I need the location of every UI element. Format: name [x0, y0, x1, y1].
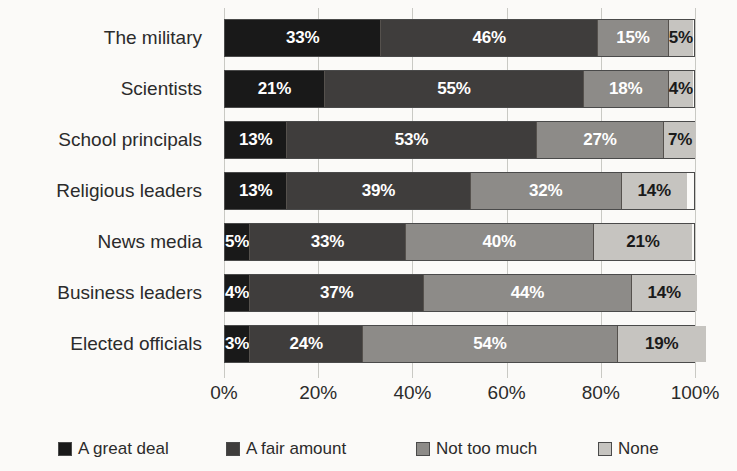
bar-row: 5%33%40%21%	[224, 223, 695, 261]
bar-row: 33%46%15%5%	[224, 19, 695, 57]
bar-segment: 4%	[225, 275, 249, 311]
bar-segment: 5%	[225, 224, 249, 260]
bar-segment: 27%	[536, 122, 663, 158]
x-tick-label: 80%	[582, 382, 620, 404]
bar-segment: 53%	[286, 122, 536, 158]
category-label: Scientists	[0, 70, 212, 108]
bar-segment: 3%	[225, 326, 249, 362]
legend-item[interactable]: A fair amount	[226, 438, 346, 460]
legend-label: None	[618, 439, 659, 459]
bar-row: 4%37%44%14%	[224, 274, 695, 312]
category-label: The military	[0, 19, 212, 57]
legend-swatch-icon	[598, 442, 612, 456]
chart-legend: A great dealA fair amountNot too muchNon…	[58, 438, 718, 462]
gridline-100	[695, 8, 696, 378]
bar-segment: 39%	[286, 173, 470, 209]
legend-swatch-icon	[226, 442, 240, 456]
stacked-bar-chart: The militaryScientistsSchool principalsR…	[0, 0, 737, 471]
bar-segment: 4%	[668, 71, 693, 107]
bar-segment: 40%	[405, 224, 593, 260]
bar-segment: 33%	[225, 20, 380, 56]
category-axis-labels: The militaryScientistsSchool principalsR…	[0, 8, 212, 378]
x-tick-label: 20%	[299, 382, 337, 404]
plot-area: 33%46%15%5%21%55%18%4%13%53%27%7%13%39%3…	[224, 8, 695, 378]
bar-segment: 14%	[621, 173, 687, 209]
bar-segment: 19%	[617, 326, 706, 362]
category-label: Elected officials	[0, 325, 212, 363]
bar-segment: 14%	[631, 275, 697, 311]
legend-label: Not too much	[436, 439, 537, 459]
bar-row: 3%24%54%19%	[224, 325, 695, 363]
legend-label: A fair amount	[246, 439, 346, 459]
bar-segment: 44%	[423, 275, 630, 311]
x-tick-label: 0%	[210, 382, 237, 404]
category-label: News media	[0, 223, 212, 261]
bar-row: 13%53%27%7%	[224, 121, 695, 159]
bar-segment: 46%	[380, 20, 597, 56]
bar-segment: 7%	[663, 122, 696, 158]
bar-segment: 5%	[668, 20, 693, 56]
category-label: Business leaders	[0, 274, 212, 312]
bar-segment: 24%	[249, 326, 362, 362]
bar-segment: 18%	[583, 71, 668, 107]
legend-swatch-icon	[416, 442, 430, 456]
bar-segment: 33%	[249, 224, 404, 260]
x-tick-label: 40%	[393, 382, 431, 404]
bar-segment: 13%	[225, 122, 286, 158]
legend-item[interactable]: None	[598, 438, 659, 460]
bar-segment: 55%	[324, 71, 583, 107]
x-tick-label: 60%	[488, 382, 526, 404]
bar-row: 21%55%18%4%	[224, 70, 695, 108]
category-label: School principals	[0, 121, 212, 159]
x-tick-label: 100%	[671, 382, 720, 404]
legend-swatch-icon	[58, 442, 72, 456]
bar-segment: 21%	[225, 71, 324, 107]
bar-segment: 37%	[249, 275, 423, 311]
legend-item[interactable]: A great deal	[58, 438, 169, 460]
bar-segment: 21%	[593, 224, 692, 260]
legend-label: A great deal	[78, 439, 169, 459]
x-axis-ticks: 0%20%40%60%80%100%	[224, 382, 695, 412]
bar-segment: 54%	[362, 326, 616, 362]
bar-segment: 32%	[470, 173, 621, 209]
legend-item[interactable]: Not too much	[416, 438, 537, 460]
category-label: Religious leaders	[0, 172, 212, 210]
bar-segment: 13%	[225, 173, 286, 209]
bar-segment: 15%	[597, 20, 668, 56]
bar-row: 13%39%32%14%	[224, 172, 695, 210]
